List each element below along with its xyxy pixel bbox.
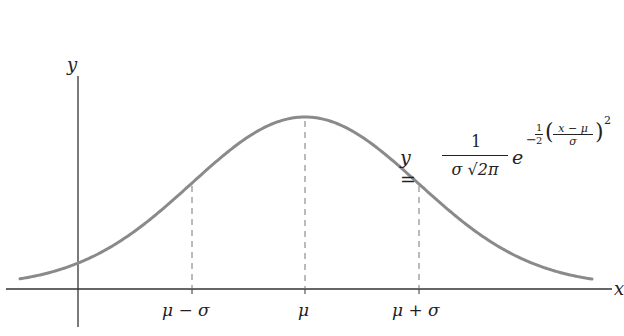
tick-label-mu: μ <box>298 302 309 319</box>
gaussian-curve <box>20 117 592 279</box>
tick-label-mu-minus-sigma: μ − σ <box>162 302 210 319</box>
x-axis-label: x <box>614 280 624 298</box>
formula-numerator: 1 <box>450 132 502 151</box>
chart-canvas <box>0 0 624 336</box>
normal-distribution-chart: y x μ − σ μ μ + σ y = 1 σ √2π e − 1 2 ( … <box>0 0 624 336</box>
formula-base-e: e <box>512 146 523 168</box>
formula-denominator: σ √2π <box>442 160 508 179</box>
formula-lhs: y = <box>400 146 416 190</box>
tick-label-mu-plus-sigma: μ + σ <box>392 302 440 319</box>
y-axis-label: y <box>67 56 77 74</box>
